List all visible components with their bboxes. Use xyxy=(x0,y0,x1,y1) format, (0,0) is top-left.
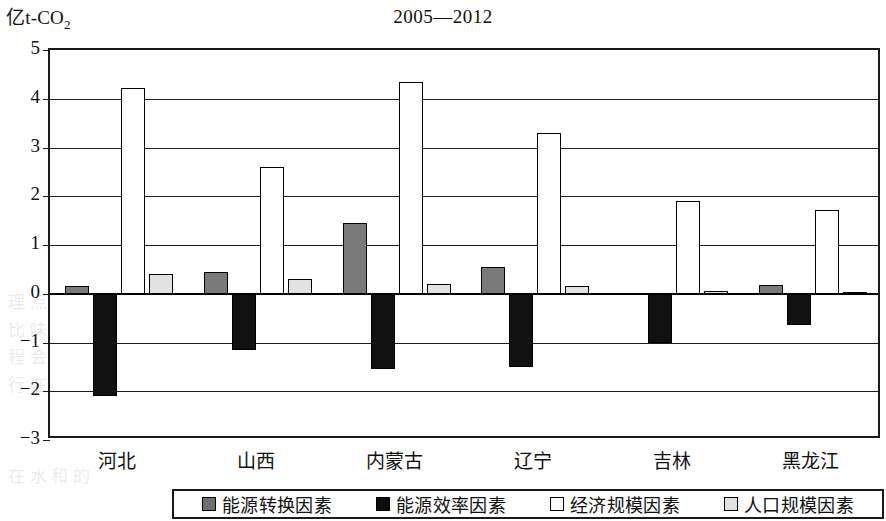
black-swatch xyxy=(376,497,390,511)
legend-item-label: 人口规模因素 xyxy=(744,491,854,517)
bar xyxy=(204,272,228,294)
gridline xyxy=(50,99,878,100)
bar xyxy=(759,285,783,294)
plot-inner xyxy=(50,50,878,436)
y-axis-tick-mark xyxy=(43,440,50,441)
x-axis-category-label: 河北 xyxy=(57,446,177,473)
y-axis-tick-mark xyxy=(43,99,50,100)
gridline xyxy=(50,343,878,344)
legend-item-label: 能源效率因素 xyxy=(396,491,506,517)
bar xyxy=(65,286,89,293)
white-swatch xyxy=(550,497,564,511)
bar xyxy=(232,294,256,350)
legend-item: 能源转换因素 xyxy=(202,491,332,517)
gray-swatch xyxy=(202,497,216,511)
y-axis-tick-label: 4 xyxy=(0,87,40,106)
bar xyxy=(509,294,533,367)
bar xyxy=(815,210,839,294)
bar xyxy=(676,201,700,294)
zero-axis-line xyxy=(50,293,878,295)
y-axis-tick-mark xyxy=(43,50,50,51)
y-axis-tick-label: 2 xyxy=(0,184,40,203)
bar xyxy=(260,167,284,294)
bar xyxy=(343,223,367,294)
y-axis-tick-mark xyxy=(43,196,50,197)
y-axis-tick-mark xyxy=(43,294,50,295)
y-axis-tick-mark xyxy=(43,391,50,392)
bar xyxy=(93,294,117,396)
bar xyxy=(149,274,173,294)
bar xyxy=(481,267,505,294)
bar xyxy=(537,133,561,294)
x-axis-category-label: 山西 xyxy=(196,446,316,473)
legend-item: 经济规模因素 xyxy=(550,491,680,517)
y-axis-tick-label: 5 xyxy=(0,38,40,57)
chart-legend: 能源转换因素能源效率因素经济规模因素人口规模因素 xyxy=(172,489,884,519)
x-axis-category-label: 吉林 xyxy=(612,446,732,473)
bar xyxy=(121,88,145,294)
bar xyxy=(427,284,451,294)
gridline xyxy=(50,245,878,246)
bar xyxy=(288,279,312,294)
y-axis-tick-mark xyxy=(43,343,50,344)
gridline xyxy=(50,196,878,197)
y-axis-tick-label: 3 xyxy=(0,136,40,155)
bar xyxy=(704,291,728,293)
bar xyxy=(787,294,811,326)
x-axis-category-label: 辽宁 xyxy=(473,446,593,473)
x-axis-category-label: 内蒙古 xyxy=(335,446,455,473)
bar xyxy=(620,293,644,295)
y-axis-tick-label: −1 xyxy=(0,331,40,350)
bar xyxy=(843,292,867,294)
bar xyxy=(399,82,423,294)
y-axis-tick-label: 0 xyxy=(0,282,40,301)
legend-item: 人口规模因素 xyxy=(724,491,854,517)
light-gray-swatch xyxy=(724,497,738,511)
y-axis-tick-label: −2 xyxy=(0,379,40,398)
y-axis-tick-mark xyxy=(43,148,50,149)
y-axis-tick-label: 1 xyxy=(0,233,40,252)
legend-item-label: 能源转换因素 xyxy=(222,491,332,517)
chart-figure: 化 的 革 的 在 世 间 提 值 原 大 不 在 业 习 面 供 据 产 山 … xyxy=(0,0,886,521)
bar xyxy=(648,294,672,343)
chart-title: 2005—2012 xyxy=(0,6,886,28)
gridline xyxy=(50,391,878,392)
legend-item-label: 经济规模因素 xyxy=(570,491,680,517)
y-axis-tick-mark xyxy=(43,245,50,246)
bar xyxy=(371,294,395,370)
y-axis-tick-label: −3 xyxy=(0,428,40,447)
x-axis-category-label: 黑龙江 xyxy=(751,446,871,473)
legend-item: 能源效率因素 xyxy=(376,491,506,517)
gridline xyxy=(50,148,878,149)
bar xyxy=(565,286,589,293)
plot-area xyxy=(48,48,880,438)
